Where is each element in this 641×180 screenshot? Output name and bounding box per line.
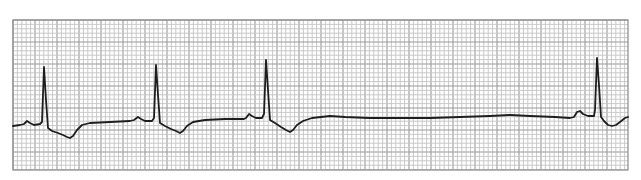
ecg-rhythm-strip: [0, 0, 641, 180]
graph-paper-grid: [13, 20, 628, 170]
ecg-chart: [0, 0, 641, 180]
